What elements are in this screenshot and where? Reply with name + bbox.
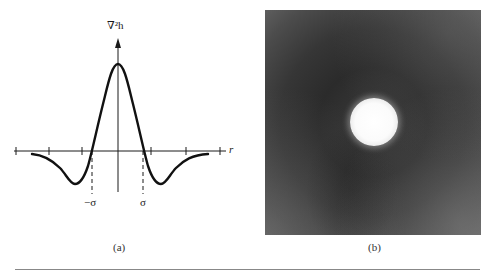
arrow-up-icon [115,38,121,48]
neg-sigma-label: −σ [84,196,96,208]
pos-sigma-label: σ [140,196,146,208]
bottom-rule [15,269,480,270]
figure-b-blob-image [265,10,481,235]
log-curve [32,64,208,184]
figure-a-laplacian-plot: ∇²h r −σ σ [0,0,250,240]
caption-b: (b) [368,241,381,253]
bright-spot [350,98,398,146]
caption-a: (a) [113,241,125,253]
x-axis-label: r [229,143,234,155]
y-axis-label: ∇²h [107,19,124,31]
laplacian-curve-plot: ∇²h r −σ σ [0,0,250,240]
